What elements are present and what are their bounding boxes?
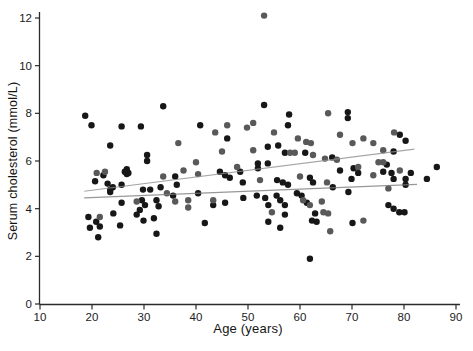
data-point-gray-points <box>193 159 199 165</box>
data-point-black-points <box>95 234 101 240</box>
data-point-gray-points <box>164 190 170 196</box>
data-point-black-points <box>313 219 319 225</box>
data-point-black-points <box>104 180 110 186</box>
data-point-black-points <box>408 170 414 176</box>
data-point-gray-points <box>325 110 331 116</box>
data-point-black-points <box>157 184 163 190</box>
data-point-gray-points <box>297 173 303 179</box>
y-tick-label: 4 <box>26 203 33 215</box>
data-point-black-points <box>274 177 280 183</box>
data-point-gray-points <box>224 122 230 128</box>
data-point-black-points <box>380 169 386 175</box>
data-point-gray-points <box>160 173 166 179</box>
data-point-black-points <box>286 111 292 117</box>
y-tick-label: 10 <box>19 60 32 72</box>
data-point-gray-points <box>261 12 267 18</box>
data-point-black-points <box>261 102 267 108</box>
data-point-black-points <box>170 192 176 198</box>
data-point-black-points <box>307 256 313 262</box>
data-point-black-points <box>434 164 440 170</box>
data-point-gray-points <box>134 198 140 204</box>
data-point-gray-points <box>172 198 178 204</box>
cholesterol-vs-age-scatter-figure: 102030405060708090024681012 Age (years) … <box>0 0 473 351</box>
data-point-black-points <box>87 225 93 231</box>
data-point-black-points <box>153 231 159 237</box>
y-tick-label: 2 <box>26 250 32 262</box>
data-point-gray-points <box>244 124 250 130</box>
data-point-black-points <box>118 200 124 206</box>
data-point-black-points <box>424 176 430 182</box>
data-point-black-points <box>355 170 361 176</box>
data-point-gray-points <box>210 197 216 203</box>
data-point-gray-points <box>324 179 330 185</box>
data-point-black-points <box>348 176 354 182</box>
data-point-black-points <box>345 115 351 121</box>
data-point-black-points <box>265 219 271 225</box>
data-point-black-points <box>265 202 271 208</box>
data-point-gray-points <box>380 159 386 165</box>
data-point-gray-points <box>250 120 256 126</box>
data-point-gray-points <box>307 202 313 208</box>
data-point-black-points <box>312 210 318 216</box>
data-point-black-points <box>349 220 355 226</box>
data-point-gray-points <box>355 164 361 170</box>
data-point-black-points <box>227 175 233 181</box>
data-point-black-points <box>390 206 396 212</box>
data-point-gray-points <box>219 148 225 154</box>
data-point-gray-points <box>185 197 191 203</box>
data-point-black-points <box>97 223 103 229</box>
data-point-black-points <box>265 160 271 166</box>
data-point-black-points <box>142 202 148 208</box>
data-point-gray-points <box>97 214 103 220</box>
data-point-black-points <box>134 211 140 217</box>
data-point-black-points <box>202 220 208 226</box>
data-point-gray-points <box>360 135 366 141</box>
data-point-black-points <box>240 179 246 185</box>
data-point-black-points <box>138 123 144 129</box>
data-point-black-points <box>197 122 203 128</box>
data-point-black-points <box>88 122 94 128</box>
data-point-black-points <box>285 182 291 188</box>
data-point-black-points <box>118 123 124 129</box>
data-point-black-points <box>262 195 268 201</box>
data-point-gray-points <box>319 198 325 204</box>
data-point-black-points <box>144 158 150 164</box>
data-point-black-points <box>402 176 408 182</box>
data-point-black-points <box>265 144 271 150</box>
y-tick-label: 8 <box>26 107 32 119</box>
data-point-black-points <box>302 150 308 156</box>
upper-trend-line <box>84 149 414 191</box>
data-point-black-points <box>337 167 343 173</box>
data-point-gray-points <box>370 140 376 146</box>
data-point-gray-points <box>269 209 275 215</box>
data-point-black-points <box>82 113 88 119</box>
data-point-black-points <box>275 142 281 148</box>
data-point-gray-points <box>234 164 240 170</box>
data-point-black-points <box>107 142 113 148</box>
data-point-black-points <box>92 178 98 184</box>
data-point-black-points <box>155 203 161 209</box>
data-point-black-points <box>345 109 351 115</box>
data-point-gray-points <box>308 140 314 146</box>
data-point-black-points <box>397 132 403 138</box>
data-point-gray-points <box>349 140 355 146</box>
data-point-black-points <box>172 173 178 179</box>
data-point-black-points <box>282 202 288 208</box>
data-point-gray-points <box>337 132 343 138</box>
data-point-black-points <box>277 225 283 231</box>
data-point-black-points <box>254 192 260 198</box>
data-point-gray-points <box>360 217 366 223</box>
data-point-gray-points <box>310 152 316 158</box>
data-point-black-points <box>240 195 246 201</box>
data-point-black-points <box>402 138 408 144</box>
y-tick-label: 0 <box>26 298 32 310</box>
data-point-gray-points <box>250 147 256 153</box>
data-point-black-points <box>222 200 228 206</box>
data-point-black-points <box>140 217 146 223</box>
data-point-black-points <box>174 182 180 188</box>
data-point-black-points <box>401 209 407 215</box>
data-point-gray-points <box>391 129 397 135</box>
data-point-gray-points <box>397 167 403 173</box>
data-point-black-points <box>285 122 291 128</box>
data-point-gray-points <box>102 169 108 175</box>
